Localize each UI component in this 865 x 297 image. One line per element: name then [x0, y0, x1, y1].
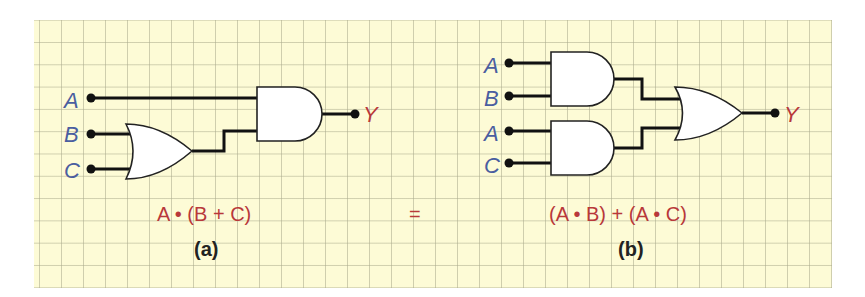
and-gate-b1 [551, 52, 614, 106]
input-label-a-A: A [64, 90, 79, 112]
output-label-b-Y: Y [784, 104, 799, 126]
input-label-a-C: C [64, 160, 80, 182]
input-label-b-B: B [484, 88, 499, 110]
input-label-a-B: B [64, 124, 79, 146]
equals-sign: = [409, 203, 421, 225]
caption-b: (b) [618, 238, 644, 260]
expression-b: (A • B) + (A • C) [549, 203, 687, 225]
caption-a: (a) [194, 238, 218, 260]
logic-circuit-diagram [0, 0, 865, 297]
input-label-b-A2: A [484, 123, 499, 145]
expression-a: A • (B + C) [157, 203, 251, 225]
output-label-a-Y: Y [363, 104, 378, 126]
input-label-b-A1: A [484, 55, 499, 77]
or-gate-a [126, 124, 192, 179]
and-gate-b2 [551, 121, 614, 175]
or-gate-b [675, 87, 742, 140]
input-label-b-C: C [484, 155, 500, 177]
and-gate-a [257, 87, 322, 141]
